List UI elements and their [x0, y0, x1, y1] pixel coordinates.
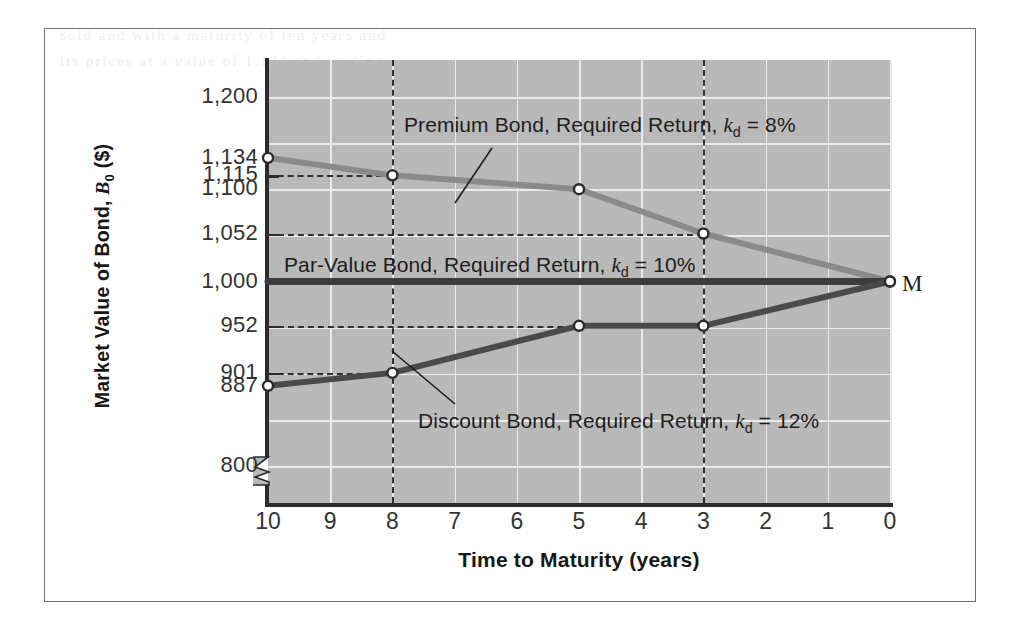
y-axis-title-symbol: B: [92, 181, 113, 194]
horizontal-gridline: [268, 143, 890, 145]
y-axis-title-suffix: ($): [91, 144, 113, 174]
label-subscript: d: [745, 420, 753, 436]
x-axis-tick-label: 1: [808, 508, 848, 535]
series-label-par-value-bond: Par-Value Bond, Required Return, kd = 10…: [284, 253, 695, 280]
x-axis-tick-label: 9: [310, 508, 350, 535]
y-axis-tick-label: 800: [220, 452, 258, 478]
label-suffix: = 12%: [753, 409, 820, 432]
horizontal-gridline: [268, 466, 890, 468]
y-axis-tick-label: 952: [220, 312, 258, 338]
x-axis-tick-label: 10: [248, 508, 288, 535]
y-axis-title-prefix: Market Value of Bond,: [91, 195, 113, 409]
y-axis-title-subscript: 0: [102, 174, 117, 182]
label-text: Premium Bond, Required Return,: [404, 113, 723, 136]
maturity-point-label: M: [902, 271, 922, 297]
label-subscript: d: [621, 264, 629, 280]
label-symbol: k: [611, 253, 620, 277]
guide-line-horizontal: [268, 175, 392, 177]
y-axis-tick-mark: [268, 175, 279, 178]
guide-line-horizontal: [268, 373, 392, 375]
x-axis-tick-label: 8: [372, 508, 412, 535]
y-axis-tick-label: 887: [220, 372, 258, 398]
y-axis-tick-mark: [268, 373, 279, 376]
x-axis-tick-label: 7: [435, 508, 475, 535]
guide-line-vertical: [392, 60, 394, 503]
y-axis-tick-label: 1,200: [201, 83, 258, 109]
vertical-gridline: [828, 60, 830, 503]
horizontal-gridline: [268, 97, 890, 99]
horizontal-gridline: [268, 235, 890, 237]
label-suffix: = 8%: [741, 113, 796, 136]
series-label-premium-bond: Premium Bond, Required Return, kd = 8%: [404, 113, 796, 140]
label-symbol: k: [735, 409, 744, 433]
y-axis-tick-label: 1,052: [201, 220, 258, 246]
x-axis-tick-label: 6: [497, 508, 537, 535]
x-axis-tick-labels: 109876543210: [0, 508, 1024, 548]
label-text: Par-Value Bond, Required Return,: [284, 253, 611, 276]
guide-line-horizontal: [268, 234, 703, 236]
x-axis-line: [265, 503, 893, 507]
x-axis-title: Time to Maturity (years): [268, 548, 890, 572]
series-label-discount-bond: Discount Bond, Required Return, kd = 12%: [418, 409, 819, 436]
x-axis-tick-label: 2: [746, 508, 786, 535]
label-suffix: = 10%: [629, 253, 696, 276]
y-axis-tick-label: 1,000: [201, 268, 258, 294]
x-axis-tick-label: 0: [870, 508, 910, 535]
y-axis-tick-mark: [268, 326, 279, 329]
y-axis-line: [265, 58, 269, 458]
label-symbol: k: [723, 113, 732, 137]
horizontal-gridline: [268, 328, 890, 330]
y-axis-tick-mark: [268, 234, 279, 237]
x-axis-tick-label: 3: [683, 508, 723, 535]
y-axis-tick-label: 1,100: [201, 175, 258, 201]
label-text: Discount Bond, Required Return,: [418, 409, 735, 432]
x-axis-tick-label: 4: [621, 508, 661, 535]
guide-line-horizontal: [268, 326, 703, 328]
vertical-gridline: [330, 60, 332, 503]
horizontal-gridline: [268, 189, 890, 191]
x-axis-tick-label: 5: [559, 508, 599, 535]
label-subscript: d: [733, 124, 741, 140]
y-axis-title: Market Value of Bond, B0 ($): [91, 144, 117, 408]
vertical-gridline: [890, 60, 892, 503]
